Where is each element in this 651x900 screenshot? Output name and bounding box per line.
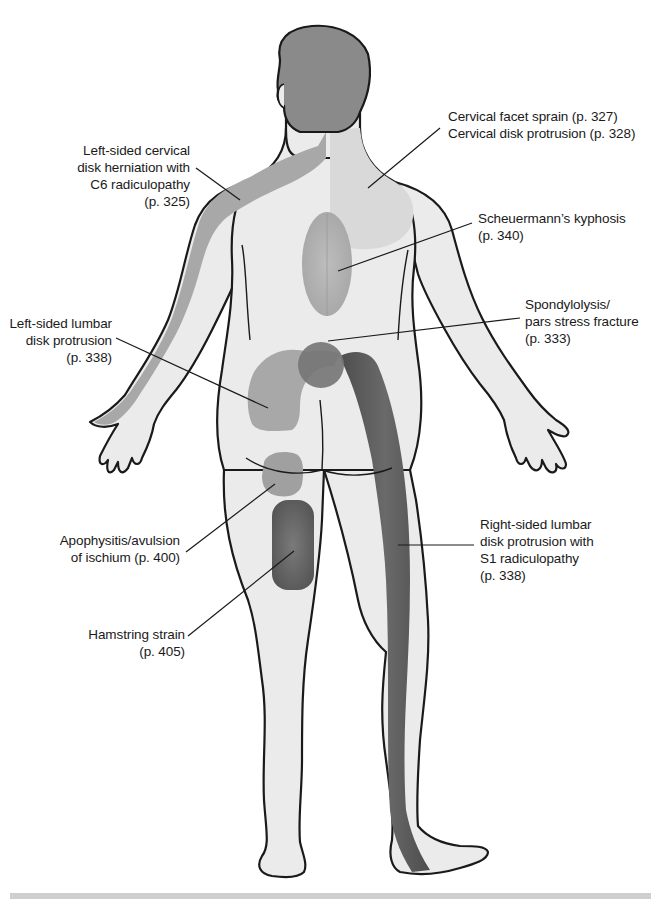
label-spondylolysis: Spondylolysis/ pars stress fracture (p. … — [525, 296, 639, 347]
left-ear — [278, 84, 284, 108]
label-apophysitis: Apophysitis/avulsion of ischium (p. 400) — [40, 532, 180, 566]
label-scheuermann: Scheuermann’s kyphosis (p. 340) — [478, 210, 626, 244]
lumbar-spondylolysis-region — [298, 342, 344, 388]
label-right-lumbar-s1: Right-sided lumbar disk protrusion with … — [480, 516, 594, 584]
label-left-lumbar: Left-sided lumbar disk protrusion (p. 33… — [0, 315, 112, 366]
head — [277, 26, 369, 132]
label-cervical-facet: Cervical facet sprain (p. 327) Cervical … — [448, 108, 635, 142]
hamstring-region — [272, 500, 314, 590]
leader-line-cervical-facet — [368, 128, 440, 188]
head-outline — [277, 26, 369, 132]
label-hamstring: Hamstring strain (p. 405) — [40, 626, 185, 660]
label-left-cervical-herniation: Left-sided cervical disk herniation with… — [40, 142, 190, 210]
bottom-divider-rule — [10, 893, 651, 899]
